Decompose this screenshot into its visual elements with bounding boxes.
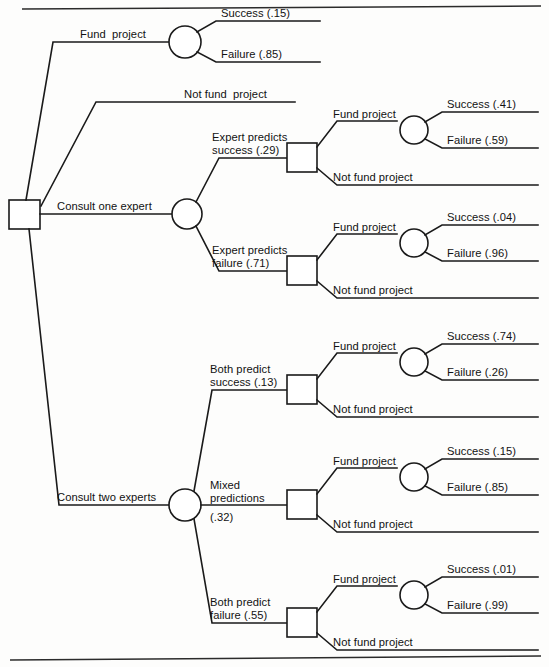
label-d1-failure-26: Failure (.26) bbox=[447, 366, 508, 379]
edge-root-consult-two-experts bbox=[29, 229, 169, 505]
decision-node-both-success[interactable] bbox=[287, 375, 317, 404]
edge-d1-fund-project bbox=[317, 353, 397, 379]
decision-tree-figure: Fund project Success (.15) Failure (.85)… bbox=[0, 0, 549, 667]
label-d3-not-fund-project: Not fund project bbox=[333, 636, 413, 649]
label-c1-not-fund-project: Not fund project bbox=[333, 171, 413, 184]
label-c1-fund-project: Fund project bbox=[333, 108, 396, 121]
label-d1-success-74: Success (.74) bbox=[447, 330, 516, 343]
decision-node-expert-success[interactable] bbox=[287, 143, 317, 172]
label-d2-fund-project: Fund project bbox=[333, 455, 396, 468]
label-c1-success-41: Success (.41) bbox=[447, 98, 516, 111]
decision-node-both-failure[interactable] bbox=[287, 608, 317, 637]
label-d2-success-15: Success (.15) bbox=[447, 445, 516, 458]
edge-d3-fund-project bbox=[317, 586, 397, 612]
label-not-fund-project-root: Not fund project bbox=[184, 88, 267, 101]
label-mixed-predictions-prob: (.32) bbox=[210, 511, 233, 524]
label-d1-fund-project: Fund project bbox=[333, 340, 396, 353]
label-expert-predicts-success: Expert predicts success (.29) bbox=[212, 131, 287, 158]
label-both-predict-failure: Both predict failure (.55) bbox=[210, 596, 270, 623]
chance-node-c2[interactable] bbox=[400, 229, 428, 257]
edge-c2-fund-project bbox=[317, 234, 397, 260]
chance-node-c1[interactable] bbox=[400, 116, 428, 144]
label-d3-fund-project: Fund project bbox=[333, 573, 396, 586]
label-c2-failure-96: Failure (.96) bbox=[447, 247, 508, 260]
label-success-15: Success (.15) bbox=[221, 7, 290, 20]
edge-d3-success-01 bbox=[425, 577, 538, 587]
label-d3-success-01: Success (.01) bbox=[447, 563, 516, 576]
decision-node-mixed[interactable] bbox=[287, 490, 317, 519]
edge-c2-success-04 bbox=[425, 225, 538, 235]
edge-success-15 bbox=[197, 21, 320, 32]
edge-d2-fund-project bbox=[317, 468, 397, 494]
edge-d1-success-74 bbox=[425, 344, 538, 354]
edge-root-fund-project bbox=[26, 42, 169, 200]
label-d2-not-fund-project: Not fund project bbox=[333, 518, 413, 531]
chance-node-fund-project-root[interactable] bbox=[169, 26, 201, 58]
label-c2-success-04: Success (.04) bbox=[447, 211, 516, 224]
chance-node-d3[interactable] bbox=[400, 581, 428, 609]
edge-both-predict-success bbox=[194, 390, 287, 491]
label-consult-two-experts: Consult two experts bbox=[57, 491, 156, 504]
decision-node-expert-failure[interactable] bbox=[287, 256, 317, 285]
label-fund-project-root: Fund project bbox=[80, 28, 146, 41]
label-c1-failure-59: Failure (.59) bbox=[447, 134, 508, 147]
label-c2-not-fund-project: Not fund project bbox=[333, 284, 413, 297]
label-c2-fund-project: Fund project bbox=[333, 221, 396, 234]
bottom-rule bbox=[10, 656, 541, 660]
label-both-predict-success: Both predict success (.13) bbox=[210, 363, 277, 390]
root-decision-node[interactable] bbox=[9, 200, 40, 229]
label-expert-predicts-failure: Expert predicts failure (.71) bbox=[212, 244, 287, 271]
chance-node-d2[interactable] bbox=[400, 463, 428, 491]
edge-c1-success-41 bbox=[425, 112, 538, 122]
label-mixed-predictions: Mixed predictions bbox=[210, 479, 265, 506]
edge-d2-success-15 bbox=[425, 459, 538, 469]
chance-node-one-expert[interactable] bbox=[172, 199, 202, 229]
label-d1-not-fund-project: Not fund project bbox=[333, 403, 413, 416]
chance-node-two-experts[interactable] bbox=[169, 489, 201, 521]
label-d2-failure-85: Failure (.85) bbox=[447, 481, 508, 494]
label-consult-one-expert: Consult one expert bbox=[57, 200, 152, 213]
label-d3-failure-99: Failure (.99) bbox=[447, 599, 508, 612]
edge-c1-fund-project bbox=[317, 121, 397, 147]
label-failure-85: Failure (.85) bbox=[221, 48, 282, 61]
edge-expert-predicts-success bbox=[196, 158, 287, 202]
chance-node-d1[interactable] bbox=[400, 348, 428, 376]
